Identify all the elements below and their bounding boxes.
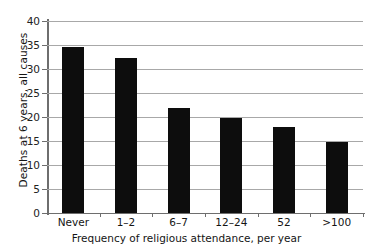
y-tick-label-25: 25 [27, 87, 40, 99]
y-tick-mark-30 [42, 69, 47, 70]
y-tick-label-40: 40 [27, 15, 40, 27]
gridline-35 [47, 45, 363, 46]
bar-chart-figure: Deaths at 6 years, all causes 0510152025… [0, 0, 373, 246]
x-tick-label-4: 12–24 [215, 216, 247, 228]
x-tick-label-6: >100 [322, 216, 351, 228]
x-axis-title: Frequency of religious attendance, per y… [0, 232, 373, 244]
gridline-10 [47, 165, 363, 166]
y-tick-label-15: 15 [27, 135, 40, 147]
gridline-30 [47, 69, 363, 70]
y-tick-mark-0 [42, 213, 47, 214]
y-tick-mark-15 [42, 141, 47, 142]
gridline-40 [47, 21, 363, 22]
bar-100 [326, 142, 348, 213]
y-tick-label-10: 10 [27, 159, 40, 171]
gridline-5 [47, 189, 363, 190]
y-tick-label-20: 20 [27, 111, 40, 123]
bar-52 [273, 127, 295, 213]
gridline-15 [47, 141, 363, 142]
bar-never [62, 47, 84, 213]
x-tick-mark-6 [363, 213, 364, 217]
y-tick-label-5: 5 [33, 183, 40, 195]
y-tick-label-0: 0 [33, 207, 40, 219]
x-tick-mark-2 [152, 213, 153, 217]
x-tick-label-3: 6–7 [169, 216, 188, 228]
y-tick-mark-10 [42, 165, 47, 166]
x-tick-label-1: Never [58, 216, 89, 228]
y-tick-mark-20 [42, 117, 47, 118]
gridline-25 [47, 93, 363, 94]
x-tick-mark-4 [258, 213, 259, 217]
x-tick-mark-3 [205, 213, 206, 217]
bar-6-7 [168, 108, 190, 213]
y-tick-mark-35 [42, 45, 47, 46]
x-tick-label-2: 1–2 [117, 216, 136, 228]
y-tick-label-35: 35 [27, 39, 40, 51]
gridline-20 [47, 117, 363, 118]
y-tick-mark-25 [42, 93, 47, 94]
y-tick-label-30: 30 [27, 63, 40, 75]
plot-area: 0510152025303540 [47, 21, 363, 213]
bar-12-24 [220, 118, 242, 213]
y-tick-mark-5 [42, 189, 47, 190]
x-tick-label-5: 52 [277, 216, 290, 228]
x-tick-mark-1 [100, 213, 101, 217]
x-tick-mark-5 [310, 213, 311, 217]
y-tick-mark-40 [42, 21, 47, 22]
bar-1-2 [115, 58, 137, 213]
